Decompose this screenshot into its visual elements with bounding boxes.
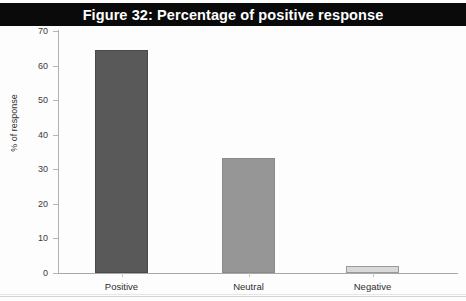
bar-positive xyxy=(95,50,148,273)
y-axis-tick-label: 0 xyxy=(22,268,48,278)
scan-artifact-line xyxy=(0,296,466,297)
y-axis-tick-label: 10 xyxy=(22,233,48,243)
x-axis-label-neutral: Neutral xyxy=(194,281,304,292)
y-axis-tick-label: 20 xyxy=(22,199,48,209)
y-axis-tick-label: 50 xyxy=(22,95,48,105)
plot-area xyxy=(58,31,458,273)
x-axis-label-positive: Positive xyxy=(67,281,177,292)
scan-artifact-line-upper xyxy=(0,294,466,295)
y-axis-tick-label: 60 xyxy=(22,61,48,71)
x-axis-label-negative: Negative xyxy=(318,281,428,292)
x-axis-tick xyxy=(249,273,250,277)
x-axis-tick xyxy=(122,273,123,277)
y-axis-tick-label: 40 xyxy=(22,130,48,140)
figure-title: Figure 32: Percentage of positive respon… xyxy=(83,7,384,23)
y-axis-title: % of response xyxy=(9,63,19,183)
x-axis-tick xyxy=(373,273,374,277)
figure-container: Figure 32: Percentage of positive respon… xyxy=(0,0,466,301)
y-axis-tick-label: 70 xyxy=(22,26,48,36)
y-axis-tick xyxy=(53,273,58,274)
y-axis-tick-labels: 010203040506070 xyxy=(22,0,48,301)
y-axis-tick-label: 30 xyxy=(22,164,48,174)
bar-neutral xyxy=(222,158,275,273)
bar-negative xyxy=(346,266,399,273)
figure-title-bar: Figure 32: Percentage of positive respon… xyxy=(0,3,466,26)
x-axis-line xyxy=(58,273,458,274)
